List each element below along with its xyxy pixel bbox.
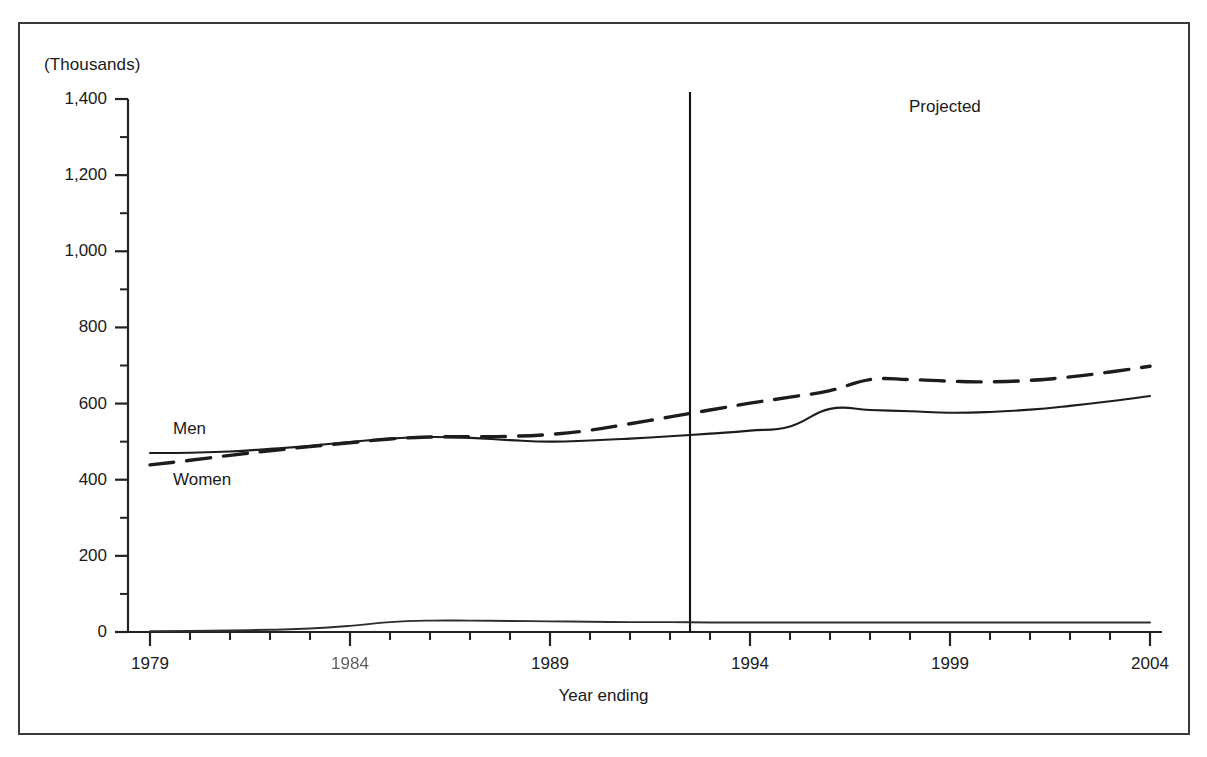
line-chart-plot bbox=[0, 0, 1207, 757]
x-tick-label: 1994 bbox=[710, 654, 790, 674]
y-tick-label: 0 bbox=[27, 622, 107, 642]
series-line-women bbox=[150, 366, 1150, 465]
y-tick-label: 200 bbox=[27, 546, 107, 566]
y-tick-label: 1,400 bbox=[27, 89, 107, 109]
y-tick-label: 400 bbox=[27, 470, 107, 490]
tick-marks bbox=[115, 99, 1150, 646]
x-tick-label: 1999 bbox=[910, 654, 990, 674]
y-tick-label: 600 bbox=[27, 394, 107, 414]
axis-lines bbox=[128, 99, 1162, 632]
x-tick-label: 1984 bbox=[310, 654, 390, 674]
y-tick-label: 1,000 bbox=[27, 241, 107, 261]
x-tick-label: 1979 bbox=[110, 654, 190, 674]
y-tick-label: 1,200 bbox=[27, 165, 107, 185]
series-line-baseline bbox=[150, 620, 1150, 631]
series-paths bbox=[150, 366, 1150, 631]
x-tick-label: 1989 bbox=[510, 654, 590, 674]
x-tick-label: 2004 bbox=[1110, 654, 1190, 674]
series-line-men bbox=[150, 396, 1150, 453]
y-tick-label: 800 bbox=[27, 317, 107, 337]
